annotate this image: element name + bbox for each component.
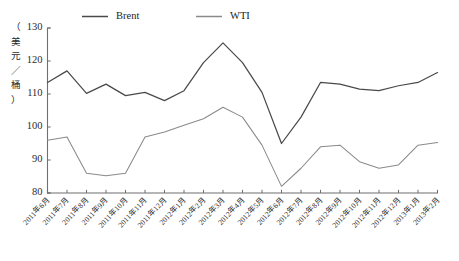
y-axis-title-char: 桶 [11,79,21,90]
y-axis-tick-label: 90 [32,153,43,164]
chart-legend: BrentWTI [82,10,250,21]
y-axis-tick-label: 80 [32,186,43,197]
chart-canvas: BrentWTI 8090100110120130 （美元／桶） 2011年6月… [0,0,459,261]
y-axis-spine [48,28,51,193]
y-axis: 8090100110120130 [27,21,51,197]
y-axis-tick-label: 130 [27,21,43,32]
y-axis-tick-label: 120 [27,54,43,65]
chart-series-lines [48,43,438,187]
legend-label-wti: WTI [230,10,250,21]
y-axis-title-char: 美 [11,36,21,47]
x-axis [48,190,438,193]
series-line-wti [48,107,438,186]
series-line-brent [48,43,438,144]
y-axis-tick-label: 110 [27,87,42,98]
x-axis-tick-labels: 2011年6月2011年7月2011年8月2011年9月2011年10月2011… [20,195,441,230]
y-axis-title-char: ） [11,94,21,105]
y-axis-title: （美元／桶） [11,21,21,105]
y-axis-title-char: 元 [11,50,21,61]
y-axis-title-char: ／ [11,65,21,76]
y-axis-tick-label: 100 [27,120,43,131]
legend-label-brent: Brent [116,10,139,21]
line-chart-container: BrentWTI 8090100110120130 （美元／桶） 2011年6月… [0,0,459,261]
y-axis-title-char: （ [11,21,21,32]
